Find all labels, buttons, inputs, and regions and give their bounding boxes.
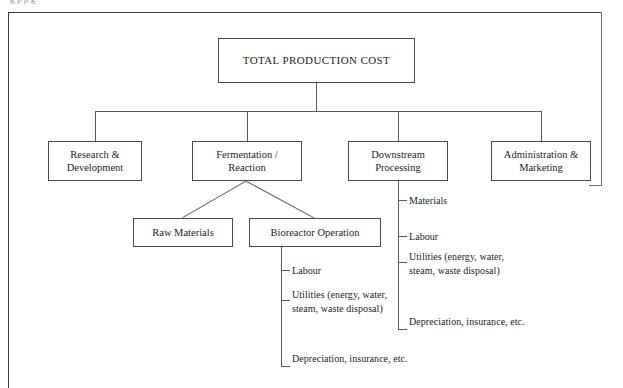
tick-bio-utilities (281, 300, 290, 301)
leaf-bio-utilities-line2: steam, waste disposal) (292, 303, 383, 314)
node-administration-marketing: Administration & Marketing (491, 141, 591, 181)
node-label-administration-marketing-line2: Marketing (504, 161, 578, 174)
page-frame-left-border (8, 12, 9, 388)
node-label-fermentation-reaction-line1: Fermentation / (216, 148, 278, 161)
connector-downstream-stem (398, 181, 399, 200)
page-frame-right-stub (589, 185, 602, 186)
node-total-production-cost: TOTAL PRODUCTION COST (218, 38, 415, 83)
page-frame-top-border (8, 12, 602, 13)
connector-fermentation-to-bioreactor-operation (247, 181, 315, 219)
node-raw-materials: Raw Materials (133, 218, 233, 247)
connector-root-stem (316, 83, 317, 111)
tick-ds-labour (398, 236, 407, 237)
node-label-fermentation-reaction-line2: Reaction (216, 161, 278, 174)
leaf-ds-materials-line1: Materials (409, 195, 447, 206)
node-label-administration-marketing-line1: Administration & (504, 148, 578, 161)
leaf-bio-depreciation-line2: etc. (393, 353, 407, 364)
connector-drop-fermentation-reaction (247, 111, 248, 141)
leaf-ds-labour: Labour (409, 230, 529, 244)
leaf-ds-utilities-line1: Utilities (energy, water, (409, 251, 504, 262)
connector-drop-research-development (95, 111, 96, 141)
node-fermentation-reaction: Fermentation / Reaction (192, 141, 302, 181)
leaf-ds-materials: Materials (409, 194, 529, 208)
leaf-ds-depreciation-line2: insurance, etc. (466, 316, 524, 327)
tick-ds-materials (398, 200, 407, 201)
tick-ds-utilities (398, 262, 407, 263)
connector-bioreactor-stem (281, 247, 282, 270)
leaf-bio-labour: Labour (292, 264, 412, 278)
node-label-downstream-processing-line2: Processing (371, 161, 425, 174)
leaf-bio-depreciation-line1: Depreciation, insurance, (292, 353, 391, 364)
node-label-bioreactor-operation: Bioreactor Operation (271, 226, 360, 239)
connector-drop-downstream-processing (398, 111, 399, 141)
leaf-ds-depreciation: Depreciation, insurance, etc. (409, 315, 529, 329)
leaf-ds-utilities-line2: steam, waste disposal) (409, 265, 500, 276)
tick-bio-labour (281, 270, 290, 271)
figure-canvas: g p p g TOTAL PRODUCTION COST (0, 0, 623, 388)
connector-downstream-spine (398, 200, 399, 329)
node-downstream-processing: Downstream Processing (348, 141, 448, 181)
node-label-total-production-cost: TOTAL PRODUCTION COST (243, 54, 390, 68)
connector-level2-bus (95, 111, 541, 112)
node-research-development: Research & Development (48, 141, 142, 181)
connector-bioreactor-spine (281, 270, 282, 366)
leaf-ds-labour-line1: Labour (409, 231, 438, 242)
leaf-bio-utilities-line1: Utilities (energy, water, (292, 289, 387, 300)
leaf-ds-utilities: Utilities (energy, water, steam, waste d… (409, 250, 531, 277)
tick-bio-depreciation (281, 366, 290, 367)
connector-drop-administration-marketing (541, 111, 542, 141)
tick-ds-depreciation (398, 329, 407, 330)
clipped-figure-caption: g p p g (10, 0, 610, 6)
leaf-ds-depreciation-line1: Depreciation, (409, 316, 464, 327)
leaf-bio-utilities: Utilities (energy, water, steam, waste d… (292, 288, 414, 315)
node-label-raw-materials: Raw Materials (152, 226, 214, 239)
node-label-research-development-line2: Development (67, 161, 124, 174)
connector-fermentation-to-raw-materials (182, 180, 247, 218)
leaf-bio-depreciation: Depreciation, insurance, etc. (292, 352, 416, 366)
page-frame-right-border (601, 12, 602, 186)
node-label-research-development-line1: Research & (67, 148, 124, 161)
node-label-downstream-processing-line1: Downstream (371, 148, 425, 161)
leaf-bio-labour-line1: Labour (292, 265, 321, 276)
node-bioreactor-operation: Bioreactor Operation (249, 218, 381, 247)
